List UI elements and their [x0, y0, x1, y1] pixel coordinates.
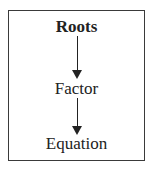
arrow-factor-to-equation-line [77, 98, 78, 128]
node-equation: Equation [0, 134, 153, 154]
arrow-down-icon [72, 70, 82, 79]
node-factor: Factor [0, 79, 153, 99]
node-roots: Roots [0, 17, 153, 37]
arrow-roots-to-factor-line [77, 36, 78, 72]
